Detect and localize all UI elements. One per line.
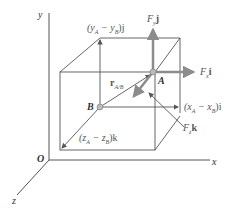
point-b-marker <box>97 104 103 110</box>
axes <box>17 13 210 195</box>
fz-label: Fzk <box>183 123 197 135</box>
point-b-label: B <box>87 102 94 112</box>
origin-label: O <box>37 154 44 164</box>
dz-label: (zA − zB)k <box>79 133 118 145</box>
x-axis-label: x <box>212 157 216 167</box>
force-arrows <box>134 30 193 96</box>
point-a-marker <box>150 69 156 75</box>
fx-label: Fxi <box>200 67 212 79</box>
position-vector-diagram: y x z O A B Fyj Fxi Fzk rA/B (yA − yB)j … <box>0 0 238 214</box>
r-ab-label: rA/B <box>110 78 123 90</box>
point-a-label: A <box>158 76 165 86</box>
z-axis-label: z <box>12 196 16 206</box>
dy-label: (yA − yB)j <box>87 23 124 35</box>
y-axis-label: y <box>38 10 42 20</box>
fy-label: Fyj <box>147 14 159 26</box>
dx-label: (xA − xB)i <box>184 102 221 114</box>
